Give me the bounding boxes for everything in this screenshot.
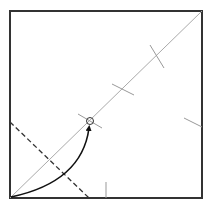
fold-diagram	[0, 0, 213, 207]
